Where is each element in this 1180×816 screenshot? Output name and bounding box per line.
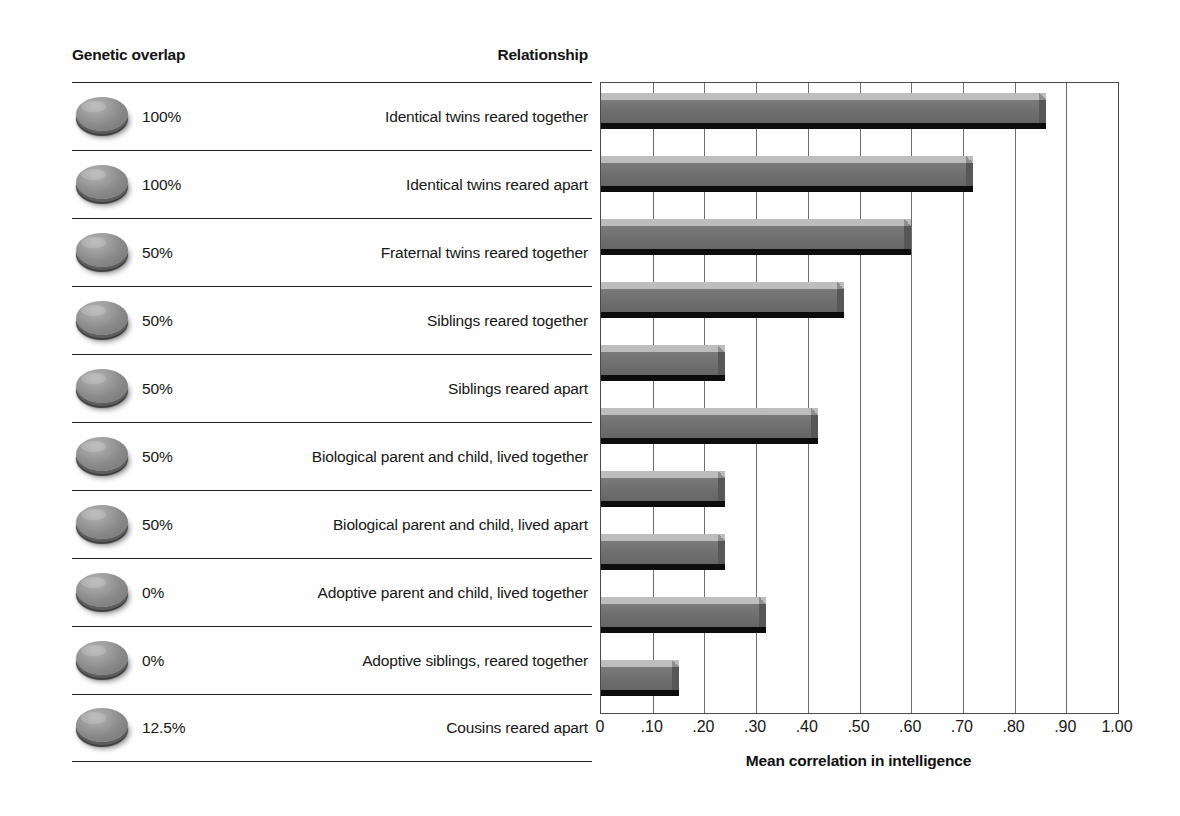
- relationship-label: Identical twins reared together: [385, 108, 588, 126]
- bar: [601, 345, 725, 381]
- bar-right-face: [718, 352, 725, 375]
- chart-page: Genetic overlap Relationship 100%Identic…: [0, 0, 1180, 816]
- bar-top-bevel: [601, 156, 966, 163]
- bar-shadow: [601, 123, 1046, 129]
- bar: [601, 282, 844, 318]
- bar: [601, 597, 766, 633]
- bar-body: [601, 667, 679, 690]
- bar: [601, 156, 973, 192]
- bar-slot: [601, 587, 1118, 650]
- table-row: 100%Identical twins reared apart: [72, 150, 592, 218]
- table-header-row: Genetic overlap Relationship: [72, 46, 592, 76]
- bar-right-face: [966, 163, 973, 186]
- bar-top-bevel: [601, 660, 672, 667]
- table-row: 12.5%Cousins reared apart: [72, 694, 592, 762]
- bar-top-cap: [966, 156, 973, 163]
- x-tick-label: .60: [899, 718, 921, 736]
- bar-right-face: [837, 289, 844, 312]
- bar-right-face: [811, 415, 818, 438]
- genetic-overlap-disc-icon: [74, 435, 132, 479]
- genetic-overlap-value: 0%: [142, 652, 164, 670]
- bar-shadow: [601, 501, 725, 507]
- bar-slot: [601, 83, 1118, 146]
- relationship-label: Siblings reared apart: [448, 380, 588, 398]
- genetic-overlap-disc-icon: [74, 706, 132, 750]
- relationship-label: Cousins reared apart: [446, 719, 588, 737]
- bar-top-bevel: [601, 597, 759, 604]
- bar-body: [601, 226, 911, 249]
- bar: [601, 660, 679, 696]
- x-tick-label: .30: [744, 718, 766, 736]
- bar-top-cap: [1039, 93, 1046, 100]
- bar-right-face: [718, 478, 725, 501]
- bar-shadow: [601, 375, 725, 381]
- bar-shadow: [601, 690, 679, 696]
- x-axis-tick-labels: 0.10.20.30.40.50.60.70.80.901.00: [600, 718, 1117, 742]
- x-tick-label: .90: [1054, 718, 1076, 736]
- bar-right-face: [672, 667, 679, 690]
- bar: [601, 219, 911, 255]
- bar-shadow: [601, 438, 818, 444]
- table-row: 50%Siblings reared apart: [72, 354, 592, 422]
- table-row: 50%Biological parent and child, lived ap…: [72, 490, 592, 558]
- relationship-label: Adoptive siblings, reared together: [362, 652, 588, 670]
- genetic-overlap-disc-icon: [74, 367, 132, 411]
- bar-right-face: [759, 604, 766, 627]
- relationship-label: Identical twins reared apart: [406, 176, 588, 194]
- bar-shadow: [601, 627, 766, 633]
- x-tick-label: .70: [951, 718, 973, 736]
- table-row: 50%Siblings reared together: [72, 286, 592, 354]
- bar-top-cap: [811, 408, 818, 415]
- bar-body: [601, 352, 725, 375]
- bar-shadow: [601, 186, 973, 192]
- bar: [601, 471, 725, 507]
- genetic-overlap-disc-icon: [74, 503, 132, 547]
- bar-right-face: [718, 541, 725, 564]
- table-row: 100%Identical twins reared together: [72, 82, 592, 150]
- bar-top-bevel: [601, 93, 1039, 100]
- bar-right-face: [1039, 100, 1046, 123]
- genetic-overlap-disc-icon: [74, 95, 132, 139]
- genetic-overlap-value: 50%: [142, 448, 173, 466]
- bar-top-cap: [904, 219, 911, 226]
- bar: [601, 534, 725, 570]
- relationship-label: Biological parent and child, lived apart: [333, 516, 588, 534]
- x-tick-label: .10: [641, 718, 663, 736]
- genetic-overlap-value: 50%: [142, 516, 173, 534]
- bar-slot: [601, 461, 1118, 524]
- bar-body: [601, 289, 844, 312]
- x-tick-label: 1.00: [1101, 718, 1132, 736]
- table-row: 50%Fraternal twins reared together: [72, 218, 592, 286]
- table-row: 50%Biological parent and child, lived to…: [72, 422, 592, 490]
- table-row: 0%Adoptive parent and child, lived toget…: [72, 558, 592, 626]
- genetic-overlap-value: 100%: [142, 176, 181, 194]
- bar-body: [601, 604, 766, 627]
- bar-slot: [601, 146, 1118, 209]
- bar-right-face: [904, 226, 911, 249]
- bar-body: [601, 163, 973, 186]
- bar-body: [601, 100, 1046, 123]
- relationship-table: Genetic overlap Relationship 100%Identic…: [72, 46, 592, 712]
- bar-top-cap: [837, 282, 844, 289]
- bar-slot: [601, 335, 1118, 398]
- bar-slot: [601, 524, 1118, 587]
- genetic-overlap-value: 50%: [142, 312, 173, 330]
- column-header-relationship: Relationship: [497, 46, 588, 64]
- bar-top-cap: [718, 345, 725, 352]
- bar-top-cap: [672, 660, 679, 667]
- bar-top-cap: [718, 471, 725, 478]
- genetic-overlap-disc-icon: [74, 571, 132, 615]
- bar-top-cap: [718, 534, 725, 541]
- genetic-overlap-value: 50%: [142, 244, 173, 262]
- genetic-overlap-disc-icon: [74, 231, 132, 275]
- bar-slot: [601, 209, 1118, 272]
- x-tick-label: 0: [596, 718, 605, 736]
- bar-top-bevel: [601, 219, 904, 226]
- x-tick-label: .80: [1002, 718, 1024, 736]
- bar-shadow: [601, 564, 725, 570]
- bar-body: [601, 541, 725, 564]
- bar-slot: [601, 650, 1118, 713]
- x-tick-label: .50: [847, 718, 869, 736]
- bar-shadow: [601, 249, 911, 255]
- bar-top-bevel: [601, 345, 718, 352]
